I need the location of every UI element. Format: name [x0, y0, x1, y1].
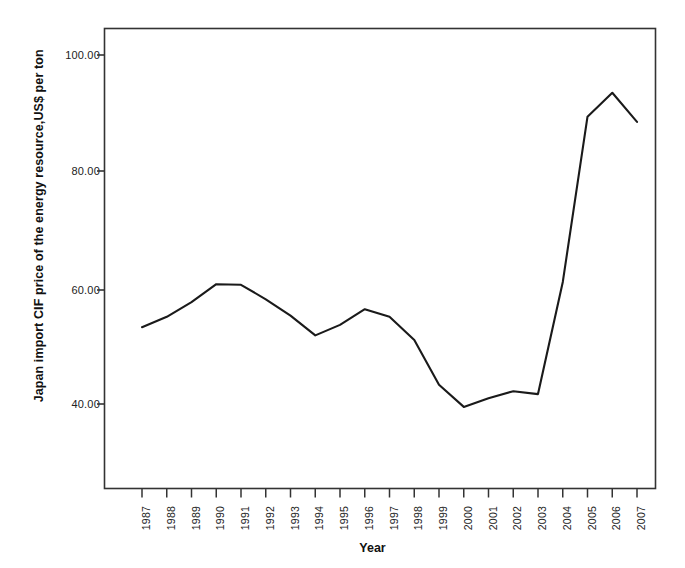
- line-chart: Japan import CIF price of the energy res…: [0, 0, 685, 568]
- x-axis-tick-labels: 1987198819891990199119921993199419951996…: [0, 0, 685, 568]
- x-axis-title: Year: [100, 541, 645, 555]
